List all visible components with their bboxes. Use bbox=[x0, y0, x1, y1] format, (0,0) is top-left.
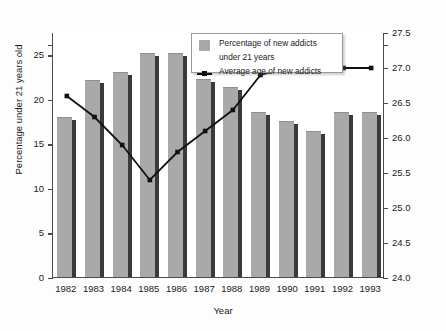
x-label: 1986 bbox=[163, 283, 191, 294]
y-tick-right bbox=[383, 103, 388, 104]
x-axis-title: Year bbox=[0, 305, 446, 316]
y-label-right: 24.5 bbox=[392, 237, 411, 248]
y-tick-right bbox=[383, 33, 388, 34]
y-tick-right bbox=[383, 173, 388, 174]
y-tick-right bbox=[383, 138, 388, 139]
y-label-left: 0 bbox=[18, 272, 44, 283]
legend-bar-label: Percentage of new addicts bbox=[219, 38, 317, 49]
legend-line-icon bbox=[197, 67, 212, 80]
y-tick-left bbox=[48, 278, 53, 279]
y-label-right: 25.0 bbox=[392, 202, 411, 213]
x-label: 1984 bbox=[107, 283, 135, 294]
x-label: 1983 bbox=[80, 283, 108, 294]
x-label: 1989 bbox=[246, 283, 274, 294]
y-tick-right bbox=[383, 208, 388, 209]
x-label: 1982 bbox=[52, 283, 80, 294]
x-label: 1990 bbox=[273, 283, 301, 294]
line-marker bbox=[203, 129, 208, 134]
x-label: 1991 bbox=[301, 283, 329, 294]
legend-bar-label-line2: under 21 years bbox=[219, 52, 337, 63]
legend-item-bar: Percentage of new addicts bbox=[197, 38, 337, 52]
x-label: 1988 bbox=[218, 283, 246, 294]
y-tick-right bbox=[383, 278, 388, 279]
y-label-right: 26.5 bbox=[392, 97, 411, 108]
y-tick-right bbox=[383, 243, 388, 244]
legend-line-label: Average age of new addicts bbox=[219, 66, 321, 77]
line-marker bbox=[148, 178, 153, 183]
y-axis-left-title: Percentage under 21 years old bbox=[13, 10, 24, 210]
y-label-right: 24.0 bbox=[392, 272, 411, 283]
line-marker bbox=[175, 150, 180, 155]
y-tick-left bbox=[48, 144, 53, 145]
y-label-right: 27.5 bbox=[392, 27, 411, 38]
x-label: 1993 bbox=[356, 283, 384, 294]
x-label: 1992 bbox=[329, 283, 357, 294]
x-label: 1987 bbox=[190, 283, 218, 294]
legend-item-line: Average age of new addicts bbox=[197, 66, 337, 80]
y-label-right: 27.0 bbox=[392, 62, 411, 73]
y-label-right: 25.5 bbox=[392, 167, 411, 178]
y-tick-left bbox=[48, 45, 53, 46]
line-marker bbox=[231, 108, 236, 113]
y-label-right: 26.0 bbox=[392, 132, 411, 143]
line-marker bbox=[65, 94, 70, 99]
line-marker bbox=[92, 115, 97, 120]
y-tick-left bbox=[48, 189, 53, 190]
legend-swatch-icon bbox=[197, 39, 212, 52]
chart-figure: 2520151050 27.527.026.526.025.525.024.52… bbox=[0, 0, 446, 331]
y-tick-left bbox=[48, 233, 53, 234]
line-marker bbox=[369, 66, 374, 71]
y-tick-left bbox=[48, 100, 53, 101]
chart-legend: Percentage of new addicts under 21 years… bbox=[191, 33, 343, 73]
y-tick-right bbox=[383, 68, 388, 69]
line-marker bbox=[120, 143, 125, 148]
y-label-left: 5 bbox=[18, 227, 44, 238]
x-label: 1985 bbox=[135, 283, 163, 294]
y-tick-left bbox=[48, 55, 53, 56]
y-tick-right bbox=[383, 45, 388, 46]
